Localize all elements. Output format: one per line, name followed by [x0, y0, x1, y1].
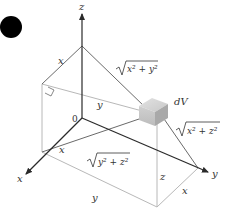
- volume-element-box: [139, 98, 168, 126]
- x-axis: [26, 118, 82, 174]
- diagram-canvas: z y x 0 dV x y x y z x x² + y² x² + z² y…: [0, 0, 232, 215]
- distance-lines: [42, 46, 198, 168]
- sqrt-expr-z: x² + y²: [127, 64, 158, 74]
- label-x-axis-x: x: [59, 144, 65, 155]
- axes: [26, 14, 208, 174]
- edge-top-y: [42, 84, 146, 112]
- sqrt-expr-x: y² + z²: [97, 157, 129, 167]
- sqrt-label-y-axis: x² + z²: [176, 122, 220, 136]
- sqrt-expr-y: x² + z²: [187, 126, 218, 136]
- element-label: dV: [174, 96, 189, 107]
- line-to-x-axis: [42, 118, 142, 152]
- label-bottom-y: y: [91, 192, 98, 203]
- label-top-y: y: [96, 99, 103, 110]
- sqrt-label-x-axis: y² + z²: [87, 153, 130, 167]
- y-axis-label: y: [211, 168, 218, 179]
- z-axis-label: z: [78, 1, 85, 12]
- line-to-z-axis: [82, 46, 146, 108]
- bullet-marker: [0, 16, 22, 38]
- sqrt-label-z-axis: x² + y²: [116, 61, 158, 75]
- x-axis-label: x: [17, 173, 23, 184]
- origin-label: 0: [72, 114, 78, 124]
- right-angle-icon: [45, 87, 54, 96]
- label-top-x: x: [58, 55, 64, 66]
- label-right-z: z: [159, 171, 166, 182]
- label-right-x: x: [182, 185, 188, 196]
